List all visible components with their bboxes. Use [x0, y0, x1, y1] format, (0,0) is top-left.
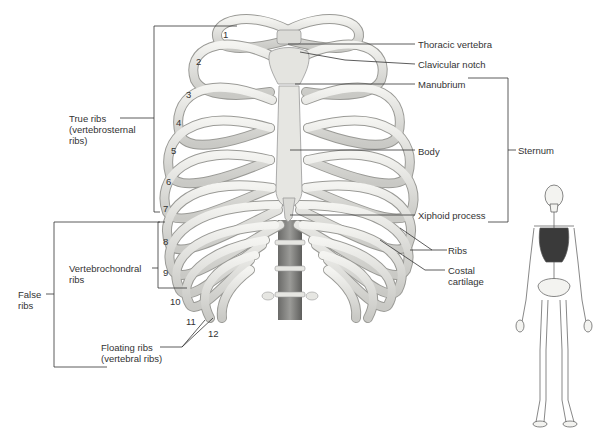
label-thoracic-vertebra: Thoracic vertebra: [418, 39, 492, 50]
rib-number-7: 7: [163, 203, 168, 214]
label-true-ribs: True ribs (vertebrosternal ribs): [69, 113, 136, 146]
sternum: [269, 30, 309, 222]
rib-number-3: 3: [186, 89, 191, 100]
rib-number-10: 10: [170, 296, 181, 307]
rib-number-5: 5: [171, 145, 176, 156]
label-manubrium: Manubrium: [418, 79, 466, 90]
rib-number-1: 1: [223, 29, 228, 40]
label-ribs: Ribs: [448, 245, 467, 256]
label-clavicular-notch: Clavicular notch: [418, 59, 486, 70]
label-costal-cartilage: Costal cartilage: [448, 265, 484, 287]
label-floating-ribs: Floating ribs (vertebral ribs): [101, 342, 162, 364]
label-xiphoid-process: Xiphoid process: [418, 210, 486, 221]
rib-number-4: 4: [176, 117, 181, 128]
label-vertebrochondral-ribs: Vertebrochondral ribs: [69, 263, 141, 285]
label-sternum: Sternum: [518, 145, 554, 156]
label-false-ribs: False ribs: [18, 289, 41, 311]
rib-cage-illustration: [0, 0, 613, 442]
rib-number-6: 6: [166, 176, 171, 187]
rib-number-11: 11: [186, 316, 196, 327]
rib-number-8: 8: [163, 236, 168, 247]
rib-number-2: 2: [196, 56, 201, 67]
inset-skeleton: [516, 185, 592, 427]
label-body: Body: [418, 146, 440, 157]
rib-number-9: 9: [163, 267, 168, 278]
rib-number-12: 12: [208, 328, 219, 339]
